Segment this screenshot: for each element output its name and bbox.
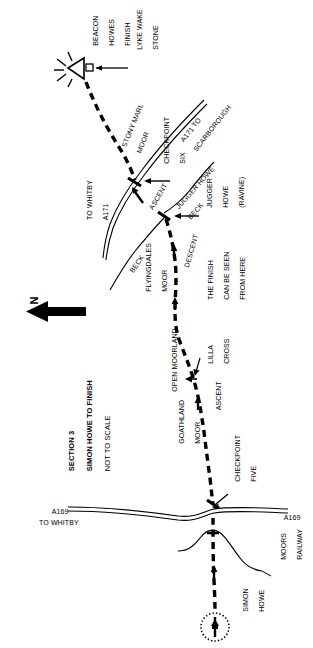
beacon-howes-line2: HOWES	[108, 19, 115, 46]
a169-road	[68, 507, 288, 520]
map-title-block: SECTION 3 SIMON HOWE TO FINISH NOT TO SC…	[58, 380, 121, 480]
moors-railway-line1: MOORS	[280, 533, 287, 560]
checkpoint-six-line2: SIX	[179, 152, 186, 164]
finish-visible-line2: CAN BE SEEN	[223, 252, 230, 300]
moors-railway-line	[178, 530, 262, 571]
lyke-wake-line2: STONE	[152, 25, 159, 50]
page-title: SECTION 3	[67, 431, 76, 472]
lilla-cross-line2: CROSS	[223, 338, 230, 363]
to-whitby-a171-line2: A171	[102, 203, 109, 220]
checkpoint-five-marker	[207, 494, 228, 509]
ascent-lower-label: ASCENT	[207, 381, 231, 418]
lilla-cross-line1: LILLA	[207, 345, 214, 364]
descent-text: DESCENT	[183, 234, 199, 269]
checkpoint-six-line1: CHECKPOINT	[163, 117, 170, 164]
finish-visible-note: THE FINISH CAN BE SEEN FROM HERE	[199, 252, 255, 308]
to-whitby-a171-label: TO WHITBY A171	[78, 180, 118, 228]
jugger-ravine-line2: HOWE	[222, 186, 229, 208]
to-whitby-a171-line1: TO WHITBY	[86, 180, 93, 220]
moors-railway-label: MOORS RAILWAY	[272, 529, 312, 568]
checkpoint-five-label: CHECKPOINT FIVE	[226, 435, 266, 490]
to-whitby-text: TO WHITBY	[39, 519, 79, 526]
open-moorland-text: OPEN MOORLAND	[171, 328, 178, 392]
a169-right-label: A169	[276, 506, 301, 530]
lilla-cross-label: LILLA CROSS	[199, 338, 239, 372]
north-letter-text: N	[28, 296, 40, 304]
map-graphics	[0, 0, 313, 648]
flyingdales-line1: FLYINGDALES	[145, 243, 152, 292]
goathland-line2: MOOR	[194, 422, 201, 444]
goathland-moor-label: GOATHLAND MOOR	[170, 400, 210, 452]
simon-howe-symbol	[201, 613, 229, 641]
north-letter: N	[22, 296, 46, 317]
open-moorland-label: OPEN MOORLAND	[163, 328, 187, 400]
finish-visible-line1: THE FINISH	[207, 260, 214, 300]
checkpoint-six-label: CHECKPOINT SIX	[155, 117, 195, 172]
simon-howe-label: SIMON HOWE	[234, 588, 274, 620]
flyingdales-moor-label: FLYINGDALES MOOR	[137, 243, 177, 300]
to-whitby-label: TO WHITBY	[31, 511, 79, 535]
checkpoint-five-line2: FIVE	[250, 466, 257, 482]
checkpoint-five-line1: CHECKPOINT	[234, 435, 241, 482]
moors-railway-leader	[262, 571, 271, 576]
ascent-lower-text: ASCENT	[215, 381, 222, 410]
simon-howe-line1: SIMON	[242, 588, 249, 611]
jugger-ravine-line1: JUGGER	[206, 178, 213, 208]
jugger-ravine-line3: (RAVINE)	[238, 177, 245, 208]
simon-howe-line2: HOWE	[258, 590, 265, 612]
stony-marl-line2: MOOR	[135, 131, 150, 154]
beacon-howes-line1: BEACON	[92, 16, 99, 46]
lyke-wake-line1: LYKE WAKE	[136, 9, 143, 50]
a169-right-text: A169	[284, 514, 301, 521]
beacon-symbol	[54, 52, 84, 87]
lyke-wake-stone-label: LYKE WAKE STONE	[128, 9, 168, 58]
flyingdales-line2: MOOR	[161, 270, 168, 292]
finish-visible-line3: FROM HERE	[239, 257, 246, 300]
scale-note: NOT TO SCALE	[103, 415, 112, 471]
moors-railway-line2: RAILWAY	[296, 529, 303, 560]
jugger-howe-ravine-label: JUGGER HOWE (RAVINE)	[198, 177, 254, 216]
lyke-wake-walk-map: BEACON HOWES FINISH LYKE WAKE STONE STON…	[0, 0, 313, 648]
lyke-wake-stone-symbol	[86, 64, 128, 71]
goathland-line1: GOATHLAND	[178, 400, 185, 444]
route-subtitle: SIMON HOWE TO FINISH	[85, 380, 94, 471]
route-arrow-lower	[211, 565, 218, 578]
